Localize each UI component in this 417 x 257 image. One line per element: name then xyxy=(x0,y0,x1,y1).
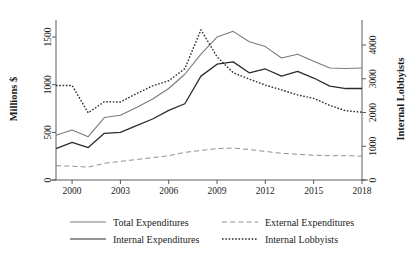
series-group xyxy=(56,30,362,167)
y-axis-right-title: Internal Lobbyists xyxy=(395,57,406,140)
x-axis-tick-label: 2003 xyxy=(111,186,130,196)
y-axis-right-tick-label: 0 xyxy=(368,177,378,182)
x-axis-tick-label: 2018 xyxy=(353,186,372,196)
x-axis-tick-label: 2009 xyxy=(208,186,227,196)
y-axis-left-tick-label: 500 xyxy=(43,125,53,140)
y-axis-left-tick-label: 1500 xyxy=(43,27,53,46)
expenditures-lobbyists-line-chart: 050010001500Millions $01000200030004000I… xyxy=(0,0,417,257)
legend-item-label: External Expenditures xyxy=(265,217,354,228)
series-line-internal-expenditures xyxy=(56,62,362,149)
series-line-external-expenditures xyxy=(56,148,362,167)
x-axis-tick-label: 2012 xyxy=(256,186,275,196)
chart-figure: 050010001500Millions $01000200030004000I… xyxy=(0,0,417,257)
y-axis-right-tick-label: 4000 xyxy=(368,35,378,54)
legend-item-label: Total Expenditures xyxy=(113,217,189,228)
y-axis-left-title: Millions $ xyxy=(8,77,19,122)
x-axis-tick-label: 2006 xyxy=(159,186,178,196)
x-axis-tick-label: 2000 xyxy=(63,186,82,196)
legend: Total ExpendituresExternal ExpendituresI… xyxy=(70,217,354,245)
y-axis-left-tick-label: 1000 xyxy=(43,75,53,94)
y-axis-right-tick-label: 3000 xyxy=(368,69,378,88)
legend-item[interactable]: Total Expenditures xyxy=(70,217,189,228)
x-axis-tick-label: 2015 xyxy=(304,186,323,196)
y-axis-right-tick-label: 2000 xyxy=(368,103,378,122)
legend-item-label: Internal Expenditures xyxy=(113,234,199,245)
legend-item-label: Internal Lobbyists xyxy=(265,234,338,245)
series-line-internal-lobbyists xyxy=(56,30,362,113)
legend-item[interactable]: Internal Expenditures xyxy=(70,234,199,245)
legend-item[interactable]: External Expenditures xyxy=(222,217,354,228)
legend-item[interactable]: Internal Lobbyists xyxy=(222,234,338,245)
y-axis-right-tick-label: 1000 xyxy=(368,137,378,156)
axes-group: 050010001500Millions $01000200030004000I… xyxy=(8,20,406,196)
series-line-total-expenditures xyxy=(56,31,362,136)
